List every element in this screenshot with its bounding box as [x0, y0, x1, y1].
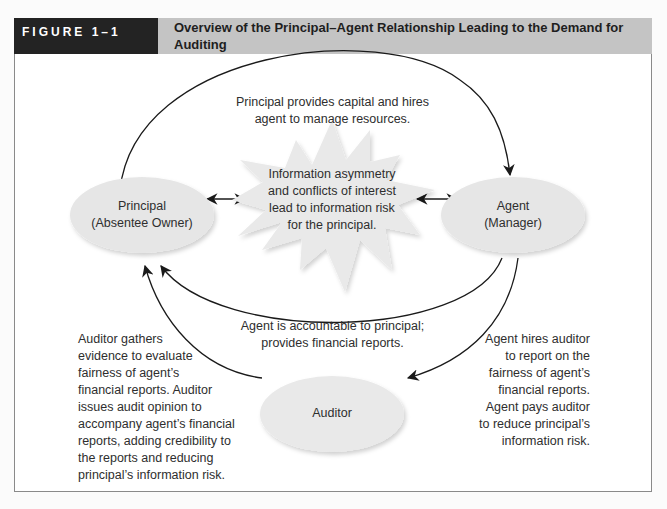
caption-line: financial reports.: [470, 382, 590, 399]
caption-line: fairness of agent’s: [78, 365, 258, 382]
auditor-to-principal-caption: Auditor gathers evidence to evaluate fai…: [78, 331, 258, 484]
caption-line: financial reports. Auditor: [78, 382, 258, 399]
caption-line: evidence to evaluate: [78, 348, 258, 365]
principal-line2: (Absentee Owner): [82, 215, 202, 232]
agent-to-auditor-caption: Agent hires auditor to report on the fai…: [470, 331, 590, 450]
principal-line1: Principal: [82, 198, 202, 215]
caption-line: reports, adding credibility to: [78, 433, 258, 450]
risk-line: and conflicts of interest: [252, 183, 412, 200]
risk-line: lead to information risk: [252, 200, 412, 217]
agent-line2: (Manager): [453, 215, 573, 232]
risk-line: Information asymmetry: [252, 166, 412, 183]
principal-label: Principal (Absentee Owner): [82, 198, 202, 232]
arrow-agent-to-principal: [161, 258, 502, 322]
caption-line: Principal provides capital and hires: [210, 94, 455, 111]
caption-line: to report on the: [470, 348, 590, 365]
caption-line: agent to manage resources.: [210, 111, 455, 128]
principal-to-agent-caption: Principal provides capital and hires age…: [210, 94, 455, 128]
agent-line1: Agent: [453, 198, 573, 215]
caption-line: Auditor gathers: [78, 331, 258, 348]
caption-line: to reduce principal’s: [470, 416, 590, 433]
risk-line: for the principal.: [252, 217, 412, 234]
caption-line: Agent hires auditor: [470, 331, 590, 348]
caption-line: the reports and reducing: [78, 450, 258, 467]
caption-line: information risk.: [470, 433, 590, 450]
risk-burst-text: Information asymmetry and conflicts of i…: [252, 166, 412, 234]
caption-line: accompany agent’s financial: [78, 416, 258, 433]
caption-line: principal’s information risk.: [78, 467, 258, 484]
caption-line: fairness of agent’s: [470, 365, 590, 382]
caption-line: issues audit opinion to: [78, 399, 258, 416]
caption-line: Agent pays auditor: [470, 399, 590, 416]
auditor-label: Auditor: [272, 405, 392, 422]
agent-label: Agent (Manager): [453, 198, 573, 232]
